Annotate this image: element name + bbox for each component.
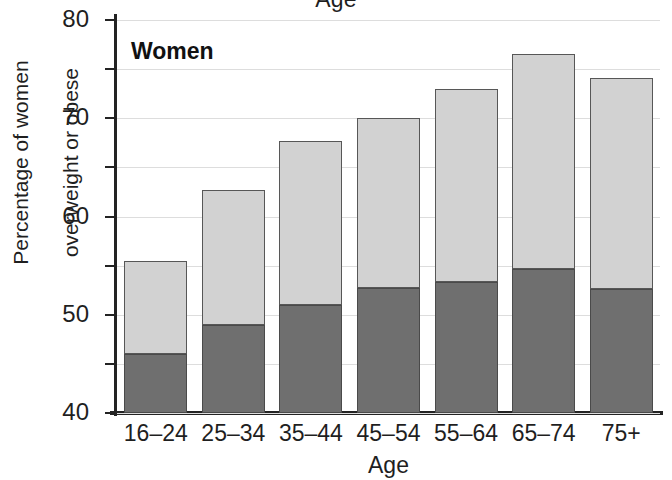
- y-axis-tick: 50: [105, 166, 115, 168]
- bar-segment-overweight[interactable]: [435, 89, 498, 283]
- y-axis-tick: 10: [105, 363, 115, 365]
- y-axis-tick-label: 80: [62, 5, 89, 33]
- x-axis-title: Age: [117, 452, 660, 479]
- x-axis-tick-label: 65–74: [512, 420, 576, 447]
- y-axis-tick-label: 40: [62, 398, 89, 426]
- bar-segment-obese[interactable]: [357, 288, 420, 413]
- y-axis-tick-label: 70: [62, 103, 89, 131]
- bar-stack[interactable]: [512, 54, 575, 413]
- y-axis-title-line-2: overweight or obese: [58, 0, 83, 328]
- y-axis-tick: 70: [105, 68, 115, 70]
- y-axis-tick: 80: [105, 19, 115, 21]
- bar-segment-obese[interactable]: [279, 305, 342, 413]
- x-axis-tick-label: 55–64: [434, 420, 498, 447]
- x-axis-tick-label: 35–44: [279, 420, 343, 447]
- y-axis-tick: 0: [105, 412, 115, 414]
- bar-segment-overweight[interactable]: [279, 141, 342, 305]
- bar-segment-obese[interactable]: [512, 269, 575, 413]
- bar-segment-obese[interactable]: [435, 282, 498, 413]
- y-axis-tick: 60: [105, 117, 115, 119]
- plot-area: 01020304050607080 Women: [117, 20, 660, 413]
- bar-stack[interactable]: [124, 261, 187, 413]
- y-axis-tick: 30: [105, 265, 115, 267]
- bar-segment-obese[interactable]: [202, 325, 265, 413]
- x-axis-tick-label: 45–54: [357, 420, 421, 447]
- x-axis-tick-label: 16–24: [124, 420, 188, 447]
- y-axis-title-line-1: Percentage of women: [8, 0, 33, 328]
- x-axis-tick-label: 25–34: [201, 420, 265, 447]
- bar-series: [117, 20, 660, 413]
- bar-stack[interactable]: [590, 77, 653, 413]
- bar-segment-overweight[interactable]: [124, 261, 187, 354]
- y-axis-tick: 20: [105, 314, 115, 316]
- bar-stack[interactable]: [357, 118, 420, 413]
- y-axis-tick-label: 50: [62, 300, 89, 328]
- bar-segment-overweight[interactable]: [357, 118, 420, 287]
- y-axis-tick-label: 60: [62, 202, 89, 230]
- bar-segment-overweight[interactable]: [590, 78, 653, 290]
- y-axis-tick: 40: [105, 216, 115, 218]
- y-axis-title: Percentage of women overweight or obese: [0, 0, 108, 328]
- bar-segment-obese[interactable]: [124, 354, 187, 413]
- bar-stack[interactable]: [202, 190, 265, 413]
- panel-label: Women: [131, 38, 214, 65]
- bar-stack[interactable]: [279, 141, 342, 413]
- bar-segment-overweight[interactable]: [202, 190, 265, 325]
- x-axis-tick-label: 75+: [602, 420, 641, 447]
- bar-stack[interactable]: [435, 89, 498, 413]
- x-axis-tick-labels: 16–2425–3435–4445–5455–6465–7475+: [117, 420, 660, 452]
- bar-segment-overweight[interactable]: [512, 54, 575, 269]
- bar-segment-obese[interactable]: [590, 289, 653, 413]
- gridline: [117, 413, 660, 414]
- chart-figure: Age Percentage of women overweight or ob…: [0, 0, 672, 480]
